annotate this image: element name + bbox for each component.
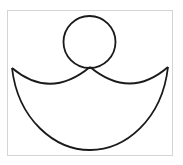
right-inner-arc bbox=[90, 67, 168, 84]
left-inner-arc bbox=[12, 67, 90, 84]
top-circle bbox=[64, 16, 116, 68]
circle-crescent-figure bbox=[0, 0, 183, 165]
lower-outer-arc bbox=[12, 67, 168, 150]
